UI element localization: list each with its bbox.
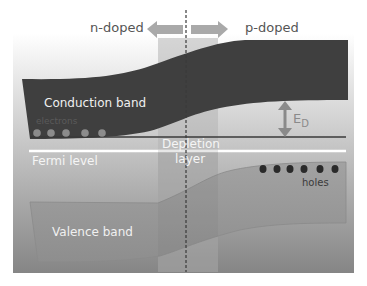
p-doped-label: p-doped <box>245 21 299 34</box>
hole-dot <box>301 165 308 173</box>
fermi-level-label: Fermi level <box>32 155 98 167</box>
ed-subscript: D <box>301 118 309 129</box>
conduction-band-label: Conduction band <box>44 97 146 109</box>
hole-dot <box>332 165 339 173</box>
n-doped-label: n-doped <box>90 21 144 34</box>
ed-symbol: E <box>293 111 301 126</box>
electron-dot <box>81 129 89 137</box>
electron-dot <box>33 129 41 137</box>
depletion-overlay <box>158 150 218 272</box>
electron-dot <box>62 129 70 137</box>
layer-label: layer <box>175 153 205 165</box>
ed-label: ED <box>293 112 309 129</box>
electron-dot <box>47 129 55 137</box>
holes-label: holes <box>302 178 329 188</box>
valence-band-label: Valence band <box>52 226 133 238</box>
hole-dot <box>317 165 324 173</box>
hole-dot <box>287 165 294 173</box>
electron-dot <box>98 129 106 137</box>
electrons-label: electrons <box>36 117 77 126</box>
hole-dot <box>274 165 281 173</box>
hole-dot <box>260 165 267 173</box>
depletion-label: Depletion <box>162 138 220 150</box>
